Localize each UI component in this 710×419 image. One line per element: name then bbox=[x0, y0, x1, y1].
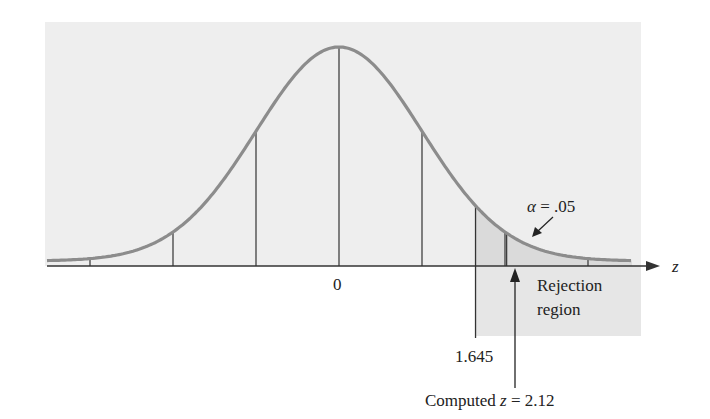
alpha-label: α = .05 bbox=[527, 197, 575, 216]
computed-z-label: Computed z = 2.12 bbox=[425, 391, 555, 410]
zero-tick-label: 0 bbox=[333, 275, 342, 294]
background-panel bbox=[45, 22, 641, 266]
z-axis-arrowhead-icon bbox=[646, 261, 660, 271]
rejection-region-label-line1: Rejection bbox=[537, 276, 603, 295]
rejection-region-label-line2: region bbox=[537, 300, 581, 319]
normal-distribution-figure: z 0 α = .05 Rejection region 1.645 Compu… bbox=[0, 0, 710, 419]
critical-value-label: 1.645 bbox=[455, 347, 493, 366]
z-axis-label: z bbox=[671, 257, 679, 276]
